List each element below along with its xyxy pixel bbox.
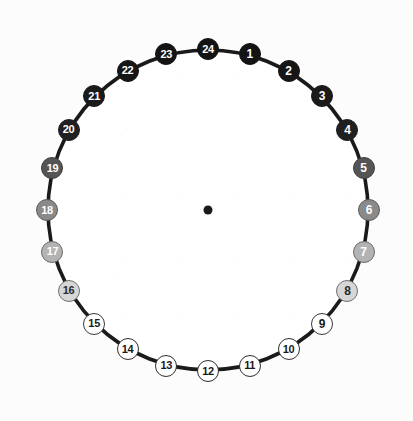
node-badge-label: 21: [88, 91, 100, 102]
wheel-center-hub: [204, 206, 213, 215]
node-badge-label: 6: [366, 204, 372, 216]
node-badge-12[interactable]: 12: [197, 360, 219, 382]
node-badge-16[interactable]: 16: [58, 280, 80, 302]
node-badge-label: 7: [360, 246, 366, 258]
node-badge-label: 15: [88, 318, 100, 329]
radial-wheel-diagram: 241234567891011121314151617181920212223: [0, 0, 413, 421]
node-badge-label: 16: [63, 285, 75, 296]
node-badge-3[interactable]: 3: [311, 85, 333, 107]
node-badge-20[interactable]: 20: [58, 119, 80, 141]
node-badge-label: 9: [319, 318, 325, 330]
wheel-canvas: [0, 0, 413, 421]
node-badge-13[interactable]: 13: [155, 355, 177, 377]
node-badge-label: 3: [319, 90, 325, 102]
node-badge-label: 10: [283, 344, 295, 355]
node-badge-label: 23: [161, 49, 173, 60]
node-badge-4[interactable]: 4: [336, 119, 358, 141]
node-badge-2[interactable]: 2: [278, 60, 300, 82]
node-badge-17[interactable]: 17: [41, 241, 63, 263]
node-badge-8[interactable]: 8: [336, 280, 358, 302]
node-badge-15[interactable]: 15: [83, 313, 105, 335]
node-badge-1[interactable]: 1: [239, 43, 261, 65]
node-badge-label: 24: [202, 44, 214, 55]
node-badge-label: 13: [161, 360, 173, 371]
node-badge-label: 20: [63, 124, 75, 135]
node-badge-label: 5: [360, 162, 366, 174]
node-badge-label: 1: [246, 48, 252, 60]
node-badge-label: 4: [344, 124, 350, 136]
node-badge-label: 17: [47, 246, 59, 257]
node-badge-label: 22: [122, 65, 134, 76]
node-badge-label: 18: [41, 205, 53, 216]
node-badge-label: 8: [344, 285, 350, 297]
node-badge-label: 12: [202, 366, 214, 377]
node-badge-14[interactable]: 14: [117, 338, 139, 360]
node-badge-9[interactable]: 9: [311, 313, 333, 335]
node-badge-11[interactable]: 11: [239, 355, 261, 377]
node-badge-7[interactable]: 7: [353, 241, 375, 263]
node-badge-6[interactable]: 6: [358, 199, 380, 221]
node-badge-5[interactable]: 5: [353, 157, 375, 179]
node-badge-label: 2: [285, 65, 291, 77]
node-badge-24[interactable]: 24: [197, 38, 219, 60]
node-badge-label: 19: [47, 163, 59, 174]
node-badge-label: 11: [244, 360, 255, 371]
node-badge-18[interactable]: 18: [36, 199, 58, 221]
node-badge-10[interactable]: 10: [278, 338, 300, 360]
node-badge-label: 14: [122, 344, 134, 355]
node-badge-22[interactable]: 22: [117, 60, 139, 82]
